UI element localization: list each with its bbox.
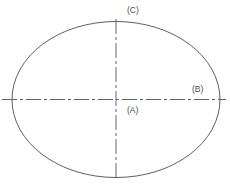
callout-label-b: (B)	[192, 84, 203, 94]
ellipse-centerline-diagram: (C) (B) (A)	[0, 0, 230, 188]
callout-label-a: (A)	[127, 105, 138, 115]
callout-label-c: (C)	[127, 5, 139, 15]
diagram-canvas	[0, 0, 230, 188]
